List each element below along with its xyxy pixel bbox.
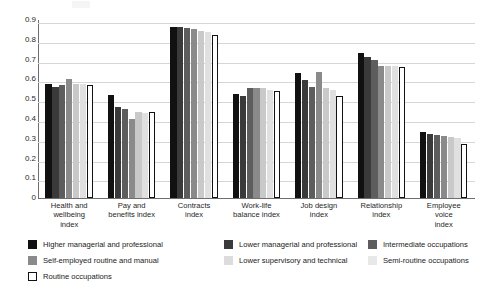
bar [330, 90, 336, 198]
bar-groups [38, 20, 475, 198]
legend-item[interactable]: Lower supervisory and technical [224, 256, 347, 265]
bar [323, 88, 329, 198]
y-tick-label: 0.9 [25, 16, 36, 24]
bar [233, 94, 239, 198]
legend-swatch-icon [28, 256, 37, 265]
legend-swatch-icon [368, 240, 377, 249]
x-category-label: Work-lifebalance index [225, 201, 287, 235]
bar [399, 67, 405, 198]
bar-group [100, 20, 162, 198]
bar [52, 87, 58, 198]
bar [45, 84, 51, 198]
bar [253, 88, 259, 198]
x-axis-category-labels: Health andwellbeingindexPay andbenefits … [38, 201, 475, 235]
x-category-label: Relationshipindex [350, 201, 412, 235]
y-tick-label: 0.4 [25, 115, 36, 123]
bar [122, 109, 128, 198]
bar [170, 27, 176, 198]
y-tick-label: 0.7 [25, 56, 36, 64]
y-tick-label: 0.3 [25, 135, 36, 143]
legend-label: Lower supervisory and technical [239, 256, 347, 265]
y-tick-label: 0.2 [25, 155, 36, 163]
bar [129, 119, 135, 198]
bar [149, 112, 155, 198]
bar [371, 60, 377, 198]
y-tick-label: 0.6 [25, 75, 36, 83]
legend-label: Routine occupations [43, 272, 112, 281]
bar [115, 107, 121, 198]
bar [198, 31, 204, 198]
y-tick-label: 0.5 [25, 95, 36, 103]
bar [240, 96, 246, 198]
legend-swatch-icon [368, 256, 377, 265]
legend-label: Higher managerial and professional [43, 240, 163, 249]
bar [461, 144, 467, 198]
bar [454, 138, 460, 198]
y-tick-label: 0.1 [25, 174, 36, 182]
x-category-label: Pay andbenefits index [100, 201, 162, 235]
bar [309, 87, 315, 198]
bar [59, 85, 65, 198]
x-category-label: Job designindex [288, 201, 350, 235]
legend-swatch-icon [224, 240, 233, 249]
legend-item[interactable]: Lower managerial and professional [224, 240, 357, 249]
bar [364, 57, 370, 198]
bar [260, 88, 266, 198]
legend-item[interactable]: Higher managerial and professional [28, 240, 163, 249]
bar [66, 79, 72, 198]
bar [205, 32, 211, 198]
legend-swatch-icon [28, 240, 37, 249]
legend-item[interactable]: Routine occupations [28, 272, 112, 281]
bar [135, 112, 141, 198]
bar [385, 66, 391, 199]
bar [427, 134, 433, 198]
bar [448, 137, 454, 198]
legend-label: Semi-routine occupations [383, 256, 469, 265]
bar-group [38, 20, 100, 198]
x-category-label: Employeevoiceindex [413, 201, 475, 235]
legend-swatch-icon [224, 256, 233, 265]
bar [247, 88, 253, 198]
bar [378, 66, 384, 198]
bar [316, 72, 322, 198]
y-tick-label: 0 [32, 194, 36, 202]
bar [274, 91, 280, 198]
bar [80, 84, 86, 198]
x-axis-line [38, 198, 475, 199]
bar [392, 66, 398, 199]
bar [177, 27, 183, 198]
bar [108, 95, 114, 198]
legend-item[interactable]: Intermediate occupations [368, 240, 468, 249]
chart-root: 0.9 0.8 0.7 0.6 0.5 0.4 0.3 0.2 0.1 0 He… [0, 0, 489, 298]
x-category-label: Health andwellbeingindex [38, 201, 100, 235]
bar [434, 135, 440, 198]
chart-legend: Higher managerial and professional Lower… [28, 240, 480, 292]
bar [336, 96, 342, 198]
bar [295, 73, 301, 198]
bar-group [225, 20, 287, 198]
bar [142, 113, 148, 198]
bar [267, 90, 273, 198]
bar [302, 80, 308, 198]
bar-group [413, 20, 475, 198]
legend-label: Lower managerial and professional [239, 240, 357, 249]
bar [212, 35, 218, 198]
bar [358, 53, 364, 198]
bar [87, 85, 93, 198]
bar-group [163, 20, 225, 198]
y-axis-tick-labels: 0.9 0.8 0.7 0.6 0.5 0.4 0.3 0.2 0.1 0 [14, 16, 36, 200]
legend-item[interactable]: Self-employed routine and manual [28, 256, 159, 265]
y-tick-label: 0.8 [25, 36, 36, 44]
legend-label: Intermediate occupations [383, 240, 468, 249]
bar [73, 84, 79, 198]
bar-group [288, 20, 350, 198]
plot-area: 0.9 0.8 0.7 0.6 0.5 0.4 0.3 0.2 0.1 0 He… [0, 0, 489, 232]
bar [441, 136, 447, 198]
legend-item[interactable]: Semi-routine occupations [368, 256, 469, 265]
x-category-label: Contractsindex [163, 201, 225, 235]
bar [420, 132, 426, 198]
legend-swatch-icon [28, 272, 37, 281]
legend-label: Self-employed routine and manual [43, 256, 159, 265]
bar [184, 28, 190, 198]
bar [191, 29, 197, 198]
